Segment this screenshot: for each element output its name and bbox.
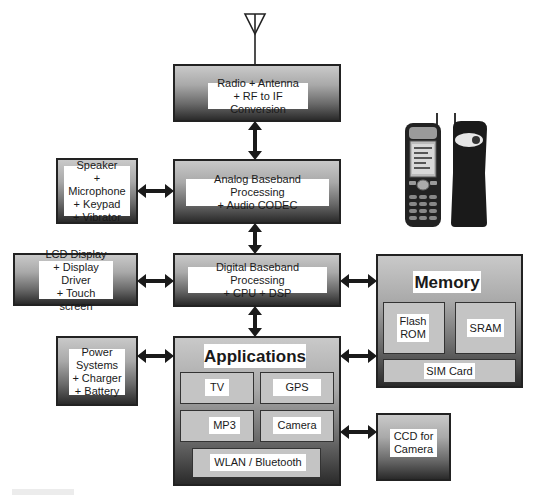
wlan-bluetooth-label: WLAN / Bluetooth bbox=[210, 454, 306, 471]
figure-caption bbox=[12, 489, 74, 495]
lcd-block: LCD Display + Display Driver + Touch scr… bbox=[13, 253, 138, 306]
tv-label: TV bbox=[205, 379, 229, 396]
tv-block: TV bbox=[180, 372, 254, 404]
arrow-lcd-digital bbox=[137, 274, 174, 288]
applications-block: Applications TV GPS MP3 Camera WLAN / Bl… bbox=[173, 336, 341, 486]
flash-rom-block: Flash ROM bbox=[383, 302, 445, 354]
arrow-power-applications bbox=[137, 349, 174, 363]
sram-label: SRAM bbox=[467, 319, 504, 337]
arrow-applications-ccd bbox=[340, 425, 377, 439]
speaker-block: Speaker + Microphone + Keypad + Vibrator bbox=[56, 158, 138, 224]
phone-back-image bbox=[449, 113, 489, 229]
gps-block: GPS bbox=[260, 372, 334, 404]
camera-block: Camera bbox=[260, 410, 334, 442]
memory-block: Memory Flash ROM SRAM SIM Card bbox=[376, 254, 523, 388]
wlan-bluetooth-block: WLAN / Bluetooth bbox=[192, 448, 321, 478]
sim-card-label: SIM Card bbox=[424, 363, 475, 379]
antenna-icon bbox=[243, 12, 267, 66]
speaker-label: Speaker + Microphone + Keypad + Vibrator bbox=[64, 166, 130, 216]
camera-label: Camera bbox=[273, 417, 321, 434]
radio-block: Radio + Antenna + RF to IF Conversion bbox=[173, 64, 341, 122]
lcd-label: LCD Display + Display Driver + Touch scr… bbox=[39, 261, 113, 299]
flash-rom-label: Flash ROM bbox=[397, 314, 429, 342]
mp3-block: MP3 bbox=[180, 410, 254, 442]
digital-baseband-block: Digital Baseband Processing + CPU + DSP bbox=[173, 253, 341, 307]
gps-label: GPS bbox=[273, 379, 321, 396]
sram-block: SRAM bbox=[455, 302, 516, 354]
arrow-applications-memory bbox=[340, 349, 377, 363]
ccd-label: CCD for Camera bbox=[390, 429, 437, 457]
radio-label: Radio + Antenna + RF to IF Conversion bbox=[208, 83, 308, 109]
mp3-label: MP3 bbox=[209, 417, 240, 434]
memory-title: Memory bbox=[413, 271, 481, 293]
arrow-speaker-analog bbox=[137, 184, 174, 198]
sim-card-block: SIM Card bbox=[383, 359, 516, 383]
arrow-digital-applications bbox=[248, 306, 262, 337]
arrow-radio-analog bbox=[248, 121, 262, 160]
analog-baseband-block: Analog Baseband Processing + Audio CODEC bbox=[173, 159, 341, 224]
digital-baseband-label: Digital Baseband Processing + CPU + DSP bbox=[188, 267, 327, 293]
arrow-digital-memory bbox=[340, 274, 377, 288]
power-label: Power Systems + Charger + Battery bbox=[69, 349, 125, 395]
phone-front-image bbox=[403, 113, 443, 229]
power-block: Power Systems + Charger + Battery bbox=[56, 336, 138, 406]
ccd-block: CCD for Camera bbox=[376, 413, 451, 481]
analog-baseband-label: Analog Baseband Processing + Audio CODEC bbox=[186, 179, 329, 206]
applications-title: Applications bbox=[204, 344, 306, 368]
arrow-analog-digital bbox=[248, 223, 262, 254]
